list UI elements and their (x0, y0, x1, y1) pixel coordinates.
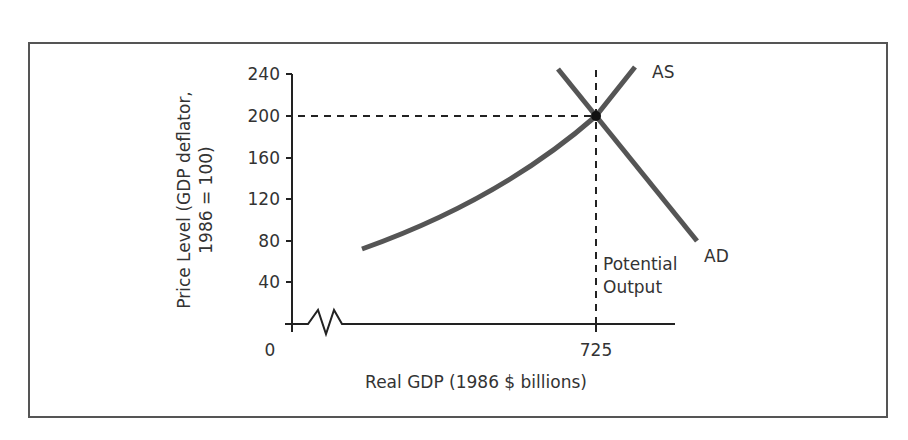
potential-output-label-line1: Potential (603, 254, 677, 274)
potential-output-label-line2: Output (603, 277, 662, 297)
x-axis-with-break (285, 310, 675, 334)
y-axis-label-line2: 1986 = 100) (196, 146, 216, 253)
y-tick-80: 80 (258, 231, 280, 251)
x-axis-label: Real GDP (1986 $ billions) (365, 372, 587, 392)
equilibrium-point (591, 111, 601, 121)
y-tick-labels: 240 200 160 120 80 40 (248, 64, 280, 292)
chart-svg: 240 200 160 120 80 40 0 725 Real GDP (19… (0, 0, 908, 440)
y-tick-120: 120 (248, 189, 280, 209)
y-axis-label-line1: Price Level (GDP deflator, (174, 91, 194, 309)
as-curve (362, 67, 635, 249)
x-tick-label-725: 725 (580, 340, 612, 360)
ad-curve (558, 69, 697, 241)
y-tick-160: 160 (248, 148, 280, 168)
y-axis-label: Price Level (GDP deflator, 1986 = 100) (174, 91, 216, 309)
y-tick-240: 240 (248, 64, 280, 84)
y-tick-200: 200 (248, 106, 280, 126)
as-label: AS (652, 62, 674, 82)
y-tick-40: 40 (258, 272, 280, 292)
x-tick-label-0: 0 (265, 340, 276, 360)
ad-label: AD (704, 246, 729, 266)
